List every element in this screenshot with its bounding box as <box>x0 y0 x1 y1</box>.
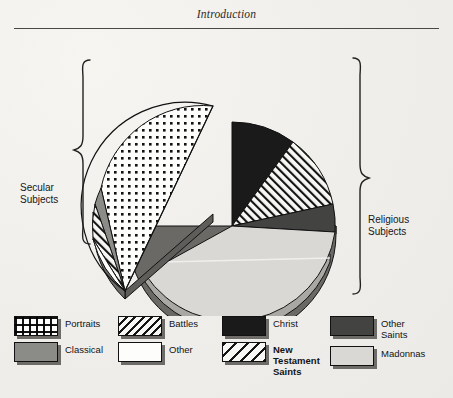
legend-label-other: Other <box>169 342 193 355</box>
legend-swatch-portraits <box>14 316 58 336</box>
running-head: Introduction <box>0 0 453 36</box>
legend-item-portraits[interactable]: Portraits <box>14 316 103 336</box>
legend-column-3: Christ New Testament Saints <box>222 316 320 383</box>
legend-label-battles: Battles <box>169 316 198 329</box>
legend-item-new-testament-saints[interactable]: New Testament Saints <box>222 342 320 377</box>
bracket-religious <box>353 58 369 294</box>
legend-column-2: Battles Other <box>118 316 198 368</box>
group-label-secular: Secular Subjects <box>20 182 82 205</box>
legend-label-classical: Classical <box>65 342 103 355</box>
legend-item-other-saints[interactable]: Other Saints <box>330 316 425 340</box>
legend-swatch-classical <box>14 342 58 362</box>
page-title: Introduction <box>0 8 453 20</box>
legend-item-battles[interactable]: Battles <box>118 316 198 336</box>
legend-label-madonnas: Madonnas <box>381 346 425 359</box>
legend-label-christ: Christ <box>273 316 298 329</box>
page-canvas: Introduction <box>0 0 453 398</box>
legend-swatch-new-testament-saints <box>222 342 266 362</box>
legend-label-portraits: Portraits <box>65 316 100 329</box>
legend-item-madonnas[interactable]: Madonnas <box>330 346 425 366</box>
legend-swatch-other-saints <box>330 316 374 336</box>
legend-item-classical[interactable]: Classical <box>14 342 103 362</box>
legend-swatch-christ <box>222 316 266 336</box>
legend-item-christ[interactable]: Christ <box>222 316 320 336</box>
legend-column-1: Portraits Classical <box>14 316 103 368</box>
group-label-religious: Religious Subjects <box>368 214 438 237</box>
legend-column-4: Other Saints Madonnas <box>330 316 425 372</box>
legend-label-new-testament-saints: New Testament Saints <box>273 342 320 377</box>
chart-legend: Portraits Classical Battles <box>0 316 453 398</box>
header-divider <box>14 28 439 29</box>
legend-swatch-madonnas <box>330 346 374 366</box>
legend-label-other-saints: Other Saints <box>381 316 407 340</box>
pie-chart: Secular Subjects Religious Subjects <box>0 36 453 316</box>
legend-item-other[interactable]: Other <box>118 342 198 362</box>
legend-swatch-battles <box>118 316 162 336</box>
legend-swatch-other <box>118 342 162 362</box>
pie-chart-svg <box>0 36 453 316</box>
